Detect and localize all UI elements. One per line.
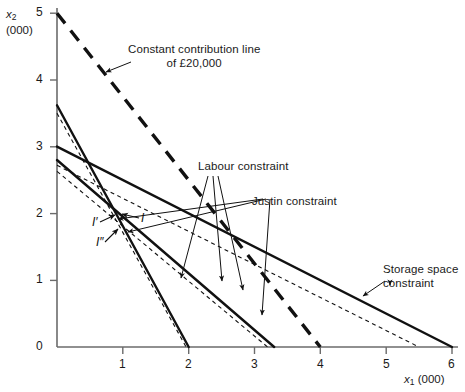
line-storage-space-constraint	[57, 147, 452, 347]
x-axis-ticks	[123, 347, 452, 354]
x-tick-1: 1	[119, 357, 126, 371]
y-axis-units: (000)	[6, 24, 33, 36]
point-label-I-dprime: I″	[96, 235, 104, 249]
x-axis-sub: 1	[410, 377, 415, 387]
y-tick-3: 3	[36, 139, 43, 153]
line-justin-constraint	[57, 105, 189, 347]
annotation-storage-line1: Storage space	[383, 263, 458, 275]
annotation-contribution-line2: of £20,000	[167, 57, 222, 69]
x-axis-units: (000)	[418, 373, 445, 385]
x-axis-title: x1 (000)	[404, 373, 445, 389]
annotation-leaders	[106, 62, 390, 315]
line-labour-constraint	[57, 160, 274, 347]
line-justin-constraint-shifted	[57, 113, 186, 347]
y-tick-4: 4	[36, 72, 43, 86]
x-tick-3: 3	[251, 357, 258, 371]
line-storage-space-constraint-shifted	[57, 165, 419, 347]
annotation-contribution-line1: Constant contribution line	[128, 43, 260, 55]
point-label-I-prime: I′	[92, 215, 98, 229]
lp-graph-figure: 5 4 3 2 1 0 1 2 3 4 5 6 x2 (000) x1 (000…	[0, 0, 465, 392]
y-tick-1: 1	[36, 272, 43, 286]
annotation-labour-constraint: Labour constraint	[198, 159, 289, 173]
annotation-storage-line2: constraint	[383, 277, 434, 289]
x-tick-5: 5	[383, 357, 390, 371]
annotation-justin-constraint: Justin constraint	[252, 194, 337, 208]
y-axis-title: x2 (000)	[6, 8, 33, 37]
x-tick-6: 6	[448, 357, 455, 371]
y-tick-0: 0	[36, 339, 43, 353]
y-tick-5: 5	[36, 5, 43, 19]
x-tick-2: 2	[185, 357, 192, 371]
y-tick-2: 2	[36, 206, 43, 220]
y-axis-sub: 2	[12, 12, 17, 22]
point-label-I: I	[141, 211, 144, 225]
annotation-constant-contribution: Constant contribution line of £20,000	[128, 42, 260, 70]
x-tick-4: 4	[317, 357, 324, 371]
annotation-storage-space-constraint: Storage space constraint	[383, 262, 458, 290]
